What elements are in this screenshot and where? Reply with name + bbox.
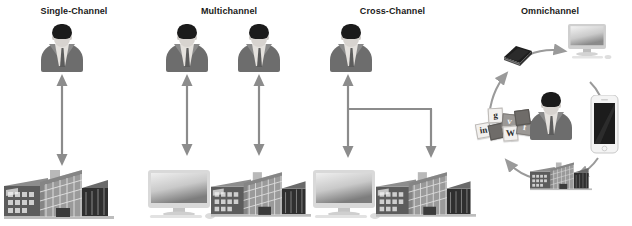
panel-omnichannel: Omnichannel <box>468 0 632 226</box>
double-headed-arrow <box>50 74 74 166</box>
double-headed-arrow <box>175 74 199 156</box>
person-hair <box>249 24 269 39</box>
catalog-book <box>502 42 534 68</box>
customer-person <box>39 24 85 72</box>
panel-title-cross-channel: Cross-Channel <box>310 6 475 16</box>
retail-store-building <box>530 158 592 194</box>
retail-store-building <box>211 168 311 220</box>
panel-title-omnichannel: Omnichannel <box>468 6 632 16</box>
panel-multichannel: Multichannel <box>148 0 310 226</box>
customer-person <box>236 24 282 72</box>
panel-single-channel: Single-Channel <box>0 0 148 226</box>
smartphone <box>589 95 621 157</box>
person-hair <box>177 24 197 39</box>
person-hair <box>341 24 361 39</box>
desktop-computer <box>566 24 612 64</box>
cross-channel-arrow-network <box>336 74 456 158</box>
panel-title-single-channel: Single-Channel <box>0 6 148 16</box>
diagram-canvas: Single-Channel <box>0 0 632 226</box>
retail-store-building <box>4 168 114 220</box>
person-hair <box>52 24 72 39</box>
person-hair <box>541 92 561 107</box>
retail-store-building <box>376 168 476 220</box>
double-headed-arrow <box>247 74 271 156</box>
panel-title-multichannel: Multichannel <box>148 6 310 16</box>
customer-person <box>164 24 210 72</box>
customer-person <box>328 24 374 72</box>
panel-cross-channel: Cross-Channel <box>310 0 475 226</box>
customer-person <box>528 92 574 140</box>
